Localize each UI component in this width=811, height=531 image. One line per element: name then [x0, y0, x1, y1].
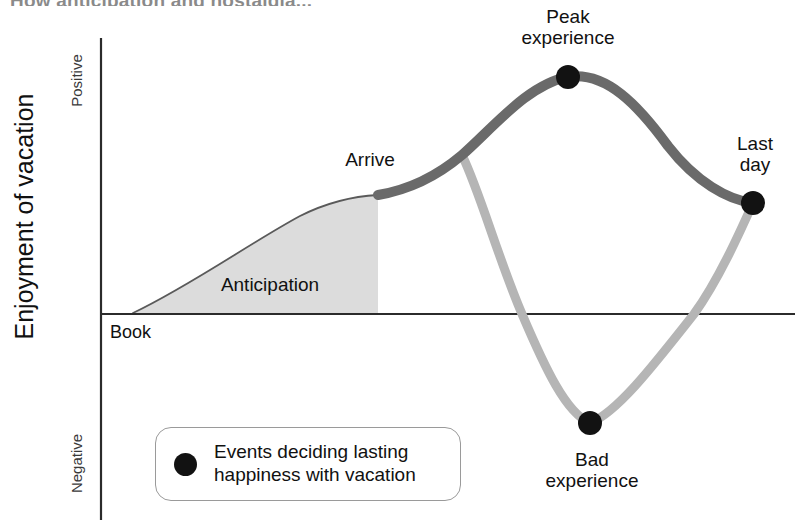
point-label-arrive: Arrive: [300, 149, 440, 170]
point-label-last-day: Last day: [700, 133, 810, 176]
area-label-anticipation: Anticipation: [180, 274, 360, 295]
vacation-enjoyment-chart: How anticipation and nostalgia... Enjoym…: [0, 0, 811, 531]
legend-marker-icon: [174, 453, 197, 476]
event-dot-peak-experience[interactable]: [556, 65, 580, 89]
event-dot-last-day[interactable]: [741, 191, 765, 215]
legend-label: Events deciding lasting happiness with v…: [214, 441, 416, 487]
point-label-peak-experience: Peak experience: [478, 6, 658, 49]
point-label-bad-experience: Bad experience: [502, 449, 682, 492]
origin-label-book: Book: [110, 322, 151, 342]
event-dot-bad-experience[interactable]: [578, 411, 602, 435]
bad-experience-curve: [462, 155, 753, 423]
peak-experience-curve: [378, 76, 753, 203]
anticipation-area: [133, 195, 378, 313]
chart-legend: Events deciding lasting happiness with v…: [155, 427, 461, 501]
